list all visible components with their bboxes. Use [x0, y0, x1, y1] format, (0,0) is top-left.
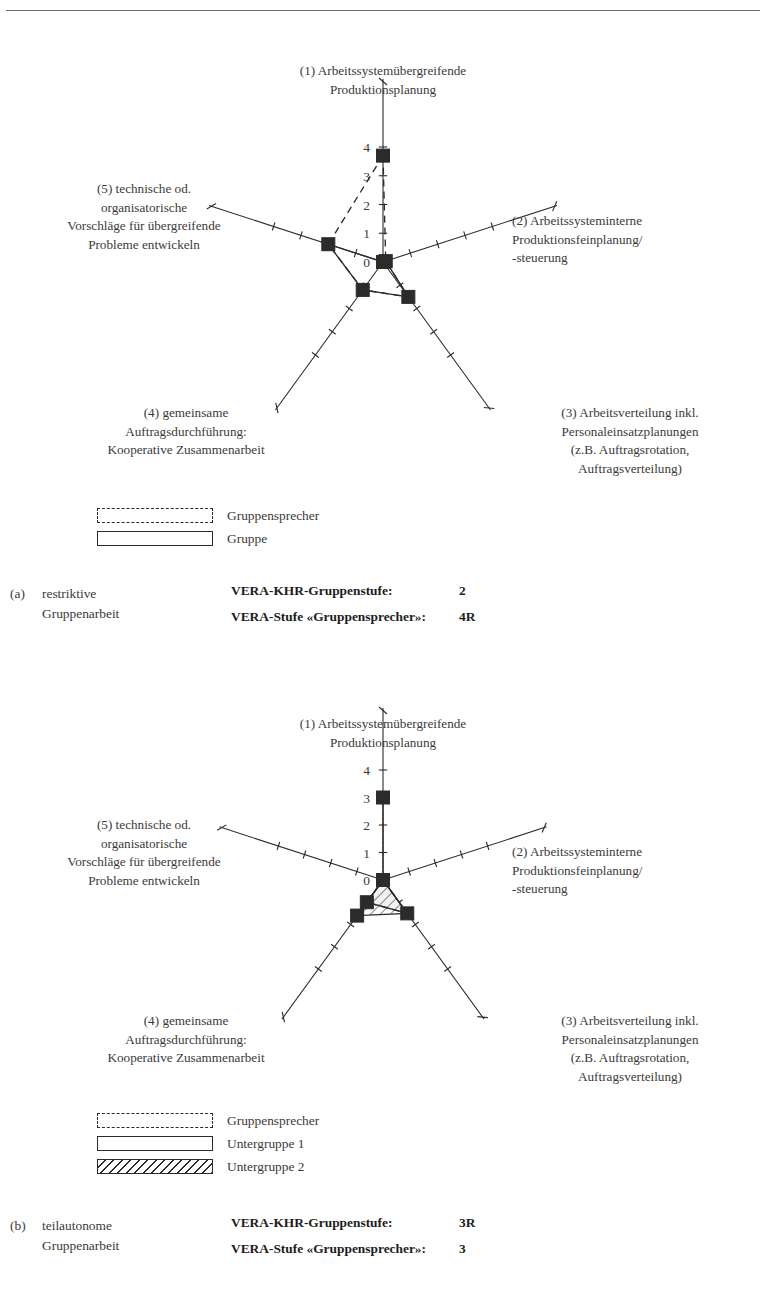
legend-item: Untergruppe 1	[97, 1133, 319, 1154]
axis-label-1: (1) Arbeitssystemübergreifende Produktio…	[243, 62, 523, 99]
r-tick-label: 4	[363, 140, 370, 155]
data-point-marker	[402, 290, 415, 303]
radar-tick	[315, 967, 322, 972]
data-point-marker	[401, 907, 414, 920]
legend-swatch-dashed	[97, 1113, 213, 1128]
legend-item: Gruppensprecher	[97, 1110, 319, 1131]
radar-tick	[428, 944, 435, 949]
axis-arrow	[484, 408, 495, 409]
vera-row: VERA-Stufe «Gruppensprecher»:3	[231, 1241, 561, 1267]
vera-key: VERA-Stufe «Gruppensprecher»:	[231, 1241, 426, 1257]
r-tick-label: 3	[363, 791, 370, 806]
legend-label: Gruppensprecher	[227, 1113, 319, 1129]
figure-b: 01234 (1) Arbeitssystemübergreifende Pro…	[0, 690, 766, 1305]
figure-a: 01234 (1) Arbeitssystemübergreifende Pro…	[0, 30, 766, 650]
legend-swatch-solid	[97, 1136, 213, 1151]
axis-label-1: (1) Arbeitssystemübergreifende Produktio…	[243, 715, 523, 752]
legend-a: GruppensprecherGruppe	[97, 505, 319, 551]
vera-value: 3	[459, 1241, 466, 1257]
data-point-marker	[377, 791, 390, 804]
data-point-marker	[356, 283, 369, 296]
header-rule	[6, 10, 760, 11]
vera-row: VERA-KHR-Gruppenstufe:2	[231, 583, 561, 609]
radar-tick	[347, 922, 354, 927]
axis-label-5: (5) technische od. organisatorische Vors…	[18, 816, 270, 890]
axis-label-3: (3) Arbeitsverteilung inkl. Personaleins…	[498, 404, 762, 478]
radar-tick	[447, 353, 454, 358]
legend-swatch-dashed	[97, 508, 213, 523]
caption-b-tag: (b)	[10, 1216, 26, 1236]
data-point-marker	[351, 909, 364, 922]
axis-label-2: (2) Arbeitssysteminterne Produktionsfein…	[512, 212, 762, 268]
radar-tick	[413, 306, 420, 311]
axis-label-5: (5) technische od. organisatorische Vors…	[18, 180, 270, 254]
radar-tick	[444, 967, 451, 972]
legend-b: GruppensprecherUntergruppe 1Untergruppe …	[97, 1110, 319, 1179]
r-tick-label: 2	[363, 818, 370, 833]
vera-block-a: VERA-KHR-Gruppenstufe:2VERA-Stufe «Grupp…	[231, 583, 561, 635]
data-point-marker	[377, 256, 390, 269]
radar-tick	[346, 306, 353, 311]
data-point-marker	[377, 149, 390, 162]
vera-row: VERA-KHR-Gruppenstufe:3R	[231, 1215, 561, 1241]
data-point-marker	[360, 896, 373, 909]
r-tick-label: 2	[363, 198, 370, 213]
axis-arrow	[477, 1017, 488, 1018]
radar-tick	[312, 353, 319, 358]
axis-label-3: (3) Arbeitsverteilung inkl. Personaleins…	[498, 1012, 762, 1086]
radar-tick	[430, 329, 437, 334]
legend-item: Gruppe	[97, 528, 319, 549]
axis-label-4: (4) gemeinsame Auftragsdurchführung: Koo…	[50, 1012, 322, 1068]
vera-key: VERA-Stufe «Gruppensprecher»:	[231, 609, 426, 625]
legend-label: Untergruppe 1	[227, 1136, 304, 1152]
axis-label-2: (2) Arbeitssysteminterne Produktionsfein…	[512, 843, 762, 899]
axis-label-4: (4) gemeinsame Auftragsdurchführung: Koo…	[50, 404, 322, 460]
r-tick-label: 1	[363, 846, 370, 861]
legend-label: Gruppe	[227, 531, 267, 547]
vera-row: VERA-Stufe «Gruppensprecher»:4R	[231, 609, 561, 635]
r-tick-label: 4	[363, 763, 370, 778]
legend-item: Untergruppe 2	[97, 1156, 319, 1177]
caption-a-text: restriktive Gruppenarbeit	[42, 584, 119, 624]
vera-value: 2	[459, 583, 466, 599]
data-point-marker	[377, 874, 390, 887]
vera-key: VERA-KHR-Gruppenstufe:	[231, 583, 392, 599]
legend-swatch-solid	[97, 531, 213, 546]
caption-a-tag: (a)	[10, 584, 25, 604]
legend-item: Gruppensprecher	[97, 505, 319, 526]
radar-tick	[412, 922, 419, 927]
legend-label: Untergruppe 2	[227, 1159, 304, 1175]
legend-swatch-hatched	[97, 1159, 213, 1174]
page: 01234 (1) Arbeitssystemübergreifende Pro…	[0, 0, 766, 1309]
radar-axis	[383, 262, 491, 410]
r-tick-label: 1	[363, 226, 370, 241]
vera-key: VERA-KHR-Gruppenstufe:	[231, 1215, 392, 1231]
legend-label: Gruppensprecher	[227, 508, 319, 524]
caption-b-text: teilautonome Gruppenarbeit	[42, 1216, 119, 1256]
radar-tick	[329, 329, 336, 334]
vera-block-b: VERA-KHR-Gruppenstufe:3RVERA-Stufe «Grup…	[231, 1215, 561, 1267]
vera-value: 3R	[459, 1215, 475, 1231]
data-point-marker	[322, 238, 335, 251]
radar-tick	[331, 944, 338, 949]
r-tick-label: 0	[363, 873, 370, 888]
vera-value: 4R	[459, 609, 475, 625]
